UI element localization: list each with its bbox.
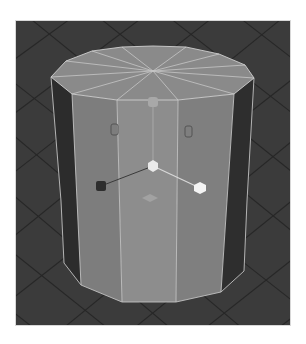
3d-viewport[interactable] — [15, 20, 291, 326]
face-front — [117, 100, 178, 302]
caption-area — [15, 328, 291, 342]
viewport-scene[interactable] — [15, 20, 291, 326]
cylinder-mesh[interactable] — [51, 46, 254, 302]
y-axis-handle[interactable] — [148, 97, 158, 107]
z-axis-handle[interactable] — [96, 181, 106, 191]
